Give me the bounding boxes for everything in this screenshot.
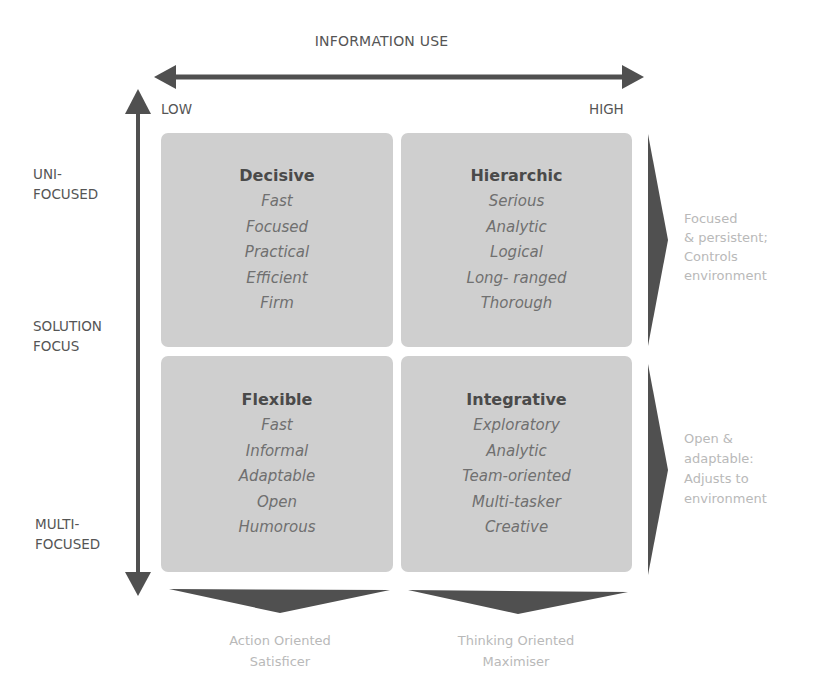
quadrant-trait: Fast xyxy=(261,189,293,215)
quadrant-trait: Long- ranged xyxy=(467,266,567,292)
y-axis-middle-label-line1: SOLUTION xyxy=(33,316,102,336)
bottom-annotation-right: Thinking Oriented Maximiser xyxy=(416,630,616,672)
quadrant-trait: Exploratory xyxy=(473,413,560,439)
annotation-line: Thinking Oriented xyxy=(416,630,616,651)
quadrant-trait: Adaptable xyxy=(239,464,316,490)
quadrant-title: Flexible xyxy=(242,387,313,413)
y-axis-top-label-line1: UNI- xyxy=(33,164,98,184)
annotation-line: environment xyxy=(684,265,768,287)
right-pointer-top xyxy=(648,134,668,346)
quadrant-title: Integrative xyxy=(466,387,566,413)
y-axis-middle-label: SOLUTION FOCUS xyxy=(33,316,102,356)
right-annotation-top: Focused & persistent; Controls environme… xyxy=(684,208,768,287)
y-axis-top-label-line2: FOCUSED xyxy=(33,184,98,204)
bottom-annotation-left: Action Oriented Satisficer xyxy=(180,630,380,672)
right-pointer-bottom xyxy=(648,364,668,575)
information-use-arrow xyxy=(154,65,644,89)
quadrant-trait: Efficient xyxy=(246,266,308,292)
solution-focus-arrow xyxy=(125,89,151,596)
y-axis-middle-label-line2: FOCUS xyxy=(33,336,102,356)
quadrant-decisive: Decisive Fast Focused Practical Efficien… xyxy=(161,133,393,347)
annotation-line: Action Oriented xyxy=(180,630,380,651)
x-axis-low-label: LOW xyxy=(161,99,192,119)
y-axis-bottom-label-line1: MULTI- xyxy=(35,514,100,534)
x-axis-title: INFORMATION USE xyxy=(0,33,763,49)
quadrant-trait: Firm xyxy=(260,291,294,317)
quadrant-trait: Fast xyxy=(261,413,293,439)
annotation-line: environment xyxy=(684,488,767,510)
diagram-graphics xyxy=(0,0,817,699)
y-axis-bottom-label: MULTI- FOCUSED xyxy=(35,514,100,554)
quadrant-trait: Analytic xyxy=(486,439,546,465)
x-axis-high-label: HIGH xyxy=(589,99,624,119)
y-axis-bottom-label-line2: FOCUSED xyxy=(35,534,100,554)
quadrant-integrative: Integrative Exploratory Analytic Team-or… xyxy=(401,356,632,572)
bottom-pointer-left xyxy=(169,589,390,613)
quadrant-trait: Logical xyxy=(490,240,543,266)
annotation-line: adaptable: xyxy=(684,448,767,470)
annotation-line: Open & xyxy=(684,428,767,450)
quadrant-trait: Informal xyxy=(246,439,309,465)
annotation-line: Satisficer xyxy=(180,651,380,672)
quadrant-trait: Practical xyxy=(245,240,309,266)
quadrant-trait: Analytic xyxy=(486,215,546,241)
y-axis-top-label: UNI- FOCUSED xyxy=(33,164,98,204)
quadrant-trait: Focused xyxy=(246,215,308,241)
quadrant-trait: Thorough xyxy=(481,291,553,317)
quadrant-trait: Multi-tasker xyxy=(472,490,561,516)
annotation-line: Maximiser xyxy=(416,651,616,672)
quadrant-flexible: Flexible Fast Informal Adaptable Open Hu… xyxy=(161,356,393,572)
bottom-pointer-right xyxy=(408,590,628,614)
right-annotation-bottom: Open & adaptable: Adjusts to environment xyxy=(684,428,767,510)
quadrant-hierarchic: Hierarchic Serious Analytic Logical Long… xyxy=(401,133,632,347)
quadrant-title: Decisive xyxy=(239,163,314,189)
quadrant-trait: Creative xyxy=(485,515,548,541)
quadrant-trait: Open xyxy=(257,490,297,516)
annotation-line: Adjusts to xyxy=(684,468,767,490)
quadrant-title: Hierarchic xyxy=(470,163,562,189)
quadrant-trait: Humorous xyxy=(238,515,315,541)
quadrant-trait: Team-oriented xyxy=(462,464,571,490)
quadrant-trait: Serious xyxy=(489,189,545,215)
